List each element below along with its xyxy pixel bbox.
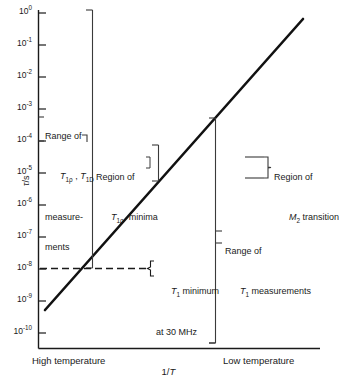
annotation-range-t1-measurements-line2: T1 measurements <box>225 276 311 306</box>
annotation-range-t1rho-t1d-line4: ments <box>45 242 94 252</box>
y-tick-label-3: 10-3 <box>2 103 32 113</box>
annotation-t1-minimum-line2: at 30 MHz <box>156 327 219 337</box>
sub-1rho-minima: 1ρ <box>117 217 124 224</box>
annotation-range-t1-measurements-line1: Range of <box>225 246 311 256</box>
y-tick-label-9: 10-9 <box>2 295 32 305</box>
y-tick-label-8: 10-8 <box>2 263 32 273</box>
y-tick-exp-3: -3 <box>26 100 32 107</box>
annotation-range-t1rho-t1d-line2: T1ρ , T1D <box>45 161 94 191</box>
y-tick-label-2: 10-2 <box>2 71 32 81</box>
x-axis-label-symbol: T <box>170 366 176 375</box>
sym-m2: M <box>289 212 297 222</box>
annotation-range-t1-measurements: Range of T1 measurements <box>225 226 311 327</box>
x-axis-label-low-temperature: Low temperature <box>223 356 294 367</box>
y-tick-exp-1: -1 <box>26 36 32 43</box>
y-tick-exp-10: -10 <box>23 324 32 331</box>
y-axis-title-unit: /s <box>21 176 31 183</box>
y-tick-exp-5: -5 <box>26 164 32 171</box>
y-tick-label-7: 10-7 <box>2 231 32 241</box>
annotation-range-t1rho-t1d-line3: measure- <box>45 212 94 222</box>
y-axis-title: τ/s <box>11 176 41 196</box>
sub-1rho: 1ρ <box>66 176 73 183</box>
bracket-left-text-ticks <box>39 117 45 141</box>
y-tick-exp-6: -6 <box>26 196 32 203</box>
annotation-range-t1-measurements-rest: measurements <box>249 286 311 296</box>
brace-t1-minimum <box>148 261 155 276</box>
annotation-range-t1rho-t1d-line1: Range of <box>45 131 94 141</box>
x-axis-label-inverse-t: 1/T <box>151 356 175 375</box>
y-tick-exp-2: -2 <box>26 68 32 75</box>
y-tick-label-10: 10-10 <box>0 327 32 337</box>
annotation-region-t1rho-minima-line1: Region of <box>96 172 158 182</box>
y-tick-exp-4: -4 <box>26 132 32 139</box>
annotation-t1-minimum: T1 minimum at 30 MHz <box>156 256 219 357</box>
annotation-range-t1rho-t1d: Range of T1ρ , T1D measure- ments <box>45 111 94 272</box>
y-tick-exp-7: -7 <box>26 228 32 235</box>
annotation-t1-minimum-line1: T1 minimum <box>156 276 219 306</box>
y-tick-exp-8: -8 <box>26 260 32 267</box>
y-tick-exp-0: 0 <box>28 4 32 11</box>
annotation-region-t1rho-minima-rest: minima <box>124 212 158 222</box>
x-axis-label-high-temperature: High temperature <box>32 356 105 367</box>
y-tick-label-6: 10-6 <box>2 199 32 209</box>
bracket-region-m2-transition <box>245 157 271 178</box>
annotation-region-m2-transition-rest: transition <box>300 212 339 222</box>
annotation-region-m2-transition-line1: Region of <box>274 172 339 182</box>
annotation-region-t1rho-minima-line2: T1ρ minima <box>96 202 158 232</box>
annotation-t1-minimum-rest: minimum <box>180 286 219 296</box>
y-tick-label-0: 100 <box>2 7 32 17</box>
y-tick-exp-9: -9 <box>26 292 32 299</box>
annotation-region-t1rho-minima: Region of T1ρ minima <box>96 152 158 253</box>
sub-1d: 1D <box>86 176 94 183</box>
y-tick-label-4: 10-4 <box>2 135 32 145</box>
y-tick-label-1: 10-1 <box>2 39 32 49</box>
y-axis-title-symbol: τ <box>21 183 31 186</box>
x-axis-label-prefix: 1/ <box>162 366 170 375</box>
